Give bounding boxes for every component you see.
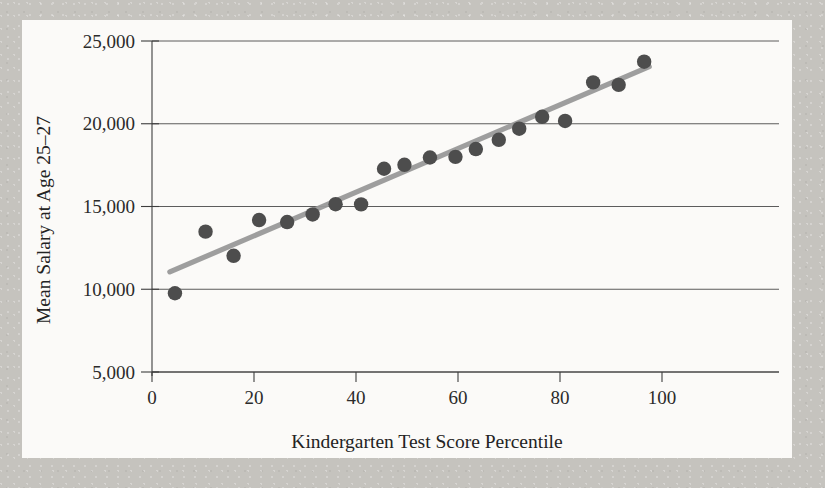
y-tick-label: 5,000 (92, 362, 135, 383)
data-point (469, 142, 483, 156)
data-point (252, 213, 266, 227)
x-tick-label: 20 (245, 387, 264, 408)
data-point (586, 75, 600, 89)
y-tick-label: 10,000 (83, 279, 135, 300)
tick-labels-group: 5,00010,00015,00020,00025,00002040608010… (83, 31, 677, 409)
data-point (397, 158, 411, 172)
data-point (611, 78, 625, 92)
data-point (198, 224, 212, 238)
scatter-plot-figure: 5,00010,00015,00020,00025,00002040608010… (22, 20, 792, 458)
y-axis-title: Mean Salary at Age 25–27 (33, 116, 54, 324)
data-point (637, 54, 651, 68)
data-point (226, 249, 240, 263)
data-point (305, 207, 319, 221)
y-tick-label: 15,000 (83, 196, 135, 217)
data-point (423, 150, 437, 164)
data-point (558, 114, 572, 128)
data-point (168, 286, 182, 300)
x-tick-label: 60 (449, 387, 468, 408)
data-point (535, 110, 549, 124)
data-point (280, 215, 294, 229)
x-tick-label: 0 (147, 387, 157, 408)
data-point (512, 122, 526, 136)
data-point (354, 197, 368, 211)
gridlines-group (152, 41, 779, 372)
x-tick-label: 100 (648, 387, 677, 408)
data-point (448, 150, 462, 164)
figure-card: 5,00010,00015,00020,00025,00002040608010… (22, 20, 792, 458)
data-points-group (168, 54, 652, 300)
data-point (492, 133, 506, 147)
y-tick-label: 20,000 (83, 113, 135, 134)
y-tick-label: 25,000 (83, 31, 135, 52)
data-point (377, 162, 391, 176)
x-tick-label: 80 (551, 387, 570, 408)
x-tick-label: 40 (347, 387, 366, 408)
data-point (328, 197, 342, 211)
x-axis-title: Kindergarten Test Score Percentile (291, 431, 562, 452)
